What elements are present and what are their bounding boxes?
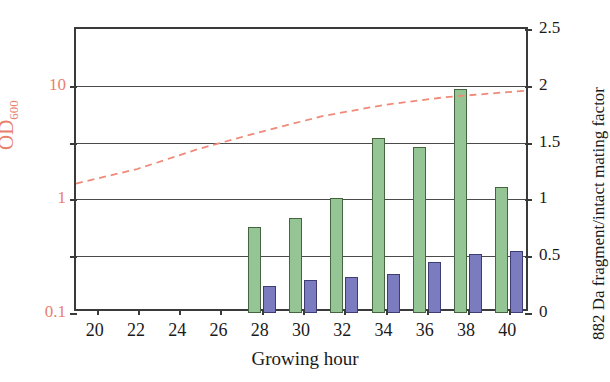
right-tick-label: 1: [539, 189, 579, 206]
dashed-trend-line: [76, 91, 526, 184]
axis-tick: [525, 86, 532, 88]
axis-tick: [70, 143, 77, 145]
x-tick-label: 32: [322, 321, 362, 339]
right-tick-label: 1.5: [539, 133, 579, 150]
left-axis-title-text: OD: [0, 120, 18, 150]
chart-figure: OD600 882 Da fragment/intact mating fact…: [0, 0, 610, 382]
x-tick-label: 24: [157, 321, 197, 339]
x-tick-label: 38: [446, 321, 486, 339]
x-tick-label: 28: [240, 321, 280, 339]
axis-tick: [525, 256, 532, 258]
axis-tick: [386, 309, 388, 315]
x-tick-label: 36: [405, 321, 445, 339]
axis-tick: [525, 313, 532, 315]
axis-tick: [468, 309, 470, 315]
axis-tick: [70, 86, 77, 88]
x-tick-label: 20: [75, 321, 115, 339]
axis-tick: [70, 256, 77, 258]
left-axis-title: OD600: [0, 100, 22, 150]
right-tick-label: 2: [539, 76, 579, 93]
trend-line-layer: [76, 29, 526, 309]
axis-tick: [70, 199, 77, 201]
plot-area: [74, 27, 528, 311]
axis-tick: [525, 199, 532, 201]
axis-tick: [525, 29, 532, 31]
axis-tick: [262, 309, 264, 315]
x-tick-label: 40: [487, 321, 527, 339]
right-tick-label: 0: [539, 303, 579, 320]
axis-tick: [220, 309, 222, 315]
axis-tick: [303, 309, 305, 315]
x-tick-label: 30: [281, 321, 321, 339]
axis-tick: [70, 313, 77, 315]
axis-tick: [179, 309, 181, 315]
axis-tick: [138, 309, 140, 315]
x-tick-label: 26: [198, 321, 238, 339]
right-axis-title: 882 Da fragment/intact mating factor: [589, 87, 609, 340]
axis-tick: [509, 309, 511, 315]
axis-tick: [344, 309, 346, 315]
left-tick-label: 0.1: [26, 303, 66, 320]
x-axis-title: Growing hour: [0, 348, 610, 370]
x-tick-label: 22: [116, 321, 156, 339]
left-axis-title-subscript: 600: [6, 100, 21, 120]
axis-tick: [427, 309, 429, 315]
right-tick-label: 2.5: [539, 19, 579, 36]
right-tick-label: 0.5: [539, 246, 579, 263]
axis-tick: [97, 309, 99, 315]
x-tick-label: 34: [364, 321, 404, 339]
left-tick-label: 1: [26, 189, 66, 206]
axis-tick: [525, 143, 532, 145]
left-tick-label: 10: [26, 76, 66, 93]
